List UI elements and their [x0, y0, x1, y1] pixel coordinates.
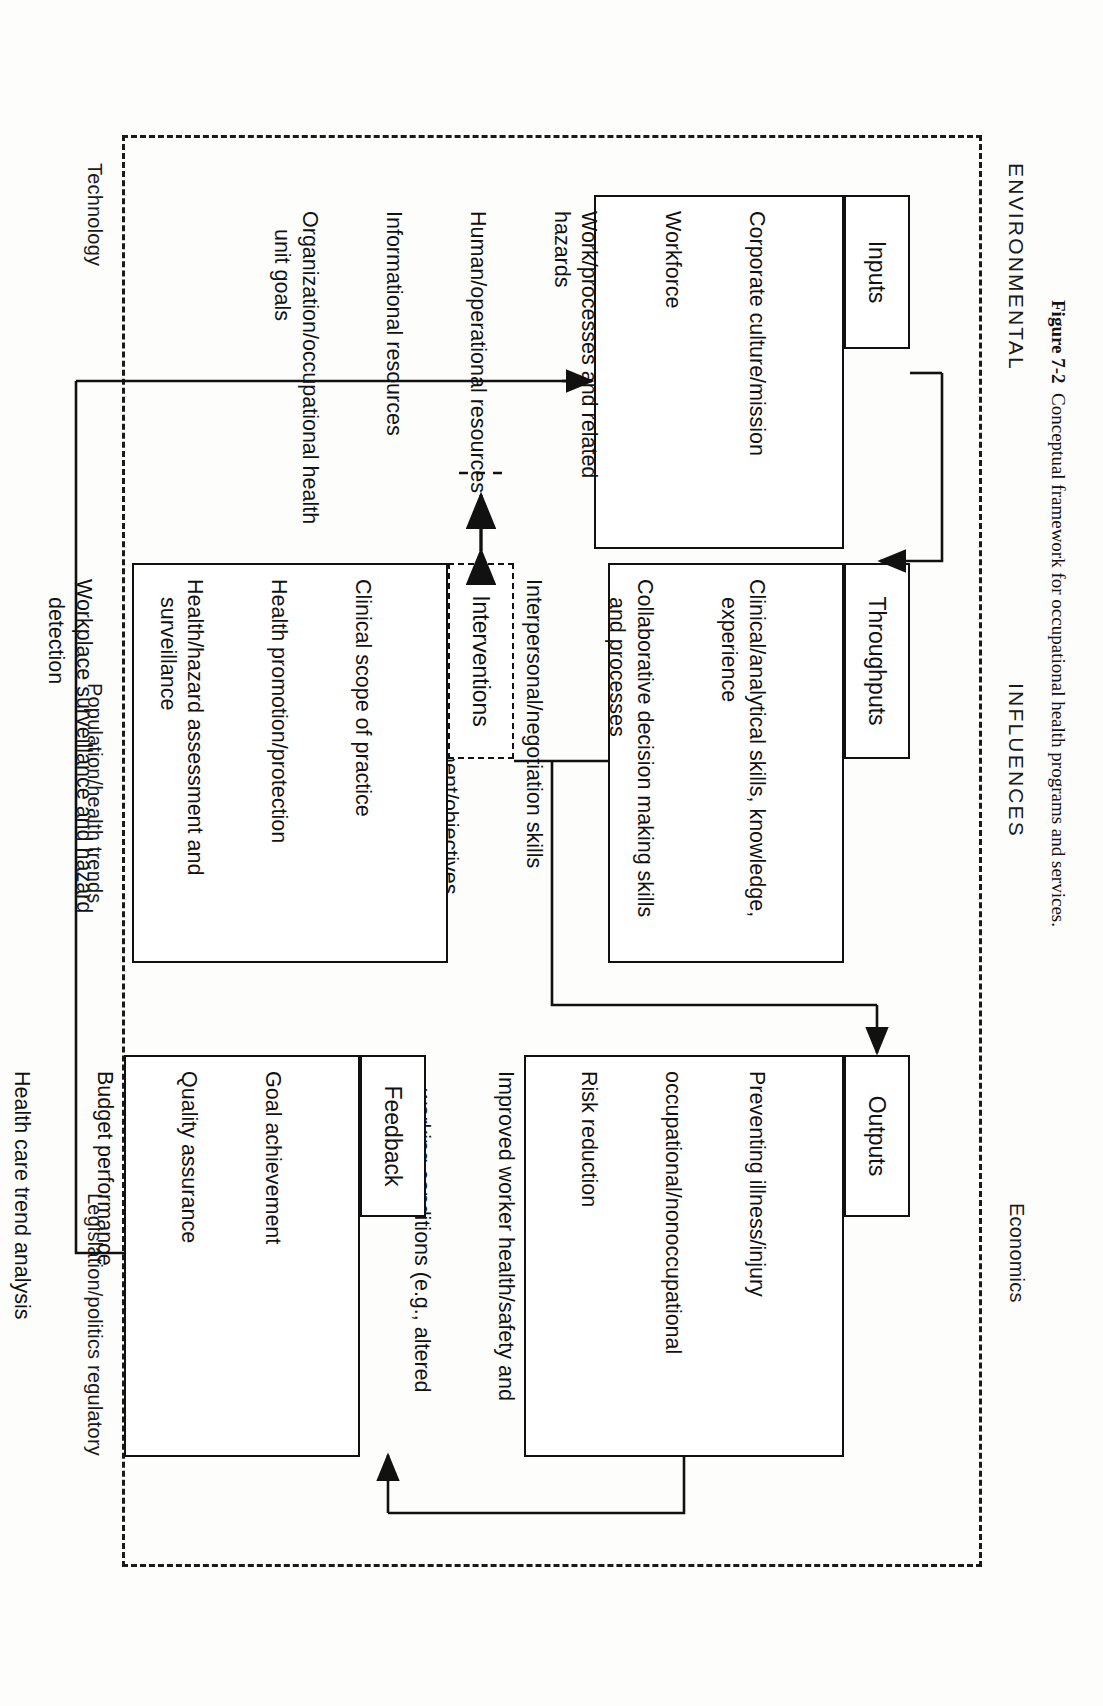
list-item: Risk reduction — [574, 1071, 602, 1453]
influence-label-economics: Economics — [1005, 1203, 1028, 1303]
node-title-inputs: Inputs — [844, 195, 910, 349]
caption-holder: Figure 7-2 Conceptual framework for occu… — [1037, 0, 1077, 1706]
list-item: Workplace surveillance and hazard detect… — [40, 579, 96, 959]
diagram-canvas: ENVIRONMENTAL INFLUENCES Economics Techn… — [42, 43, 1062, 1663]
list-item: occupational/nonoccupational — [658, 1071, 686, 1453]
list-item: Preventing illness/injury — [742, 1071, 770, 1453]
rotated-figure-wrapper: ENVIRONMENTAL INFLUENCES Economics Techn… — [42, 43, 1062, 1663]
node-list-inputs: Corporate culture/mission Workforce Work… — [211, 211, 826, 543]
node-list-interventions: Clinical scope of practice Health promot… — [0, 579, 432, 959]
figure-caption-text: Conceptual framework for occupational he… — [1048, 393, 1069, 927]
list-item: Organization/occupational health unit go… — [267, 211, 323, 543]
list-item: Corporate culture/mission — [742, 211, 770, 543]
list-item: Clinical/analytical skills, knowledge, e… — [714, 579, 770, 959]
node-title-outputs: Outputs — [844, 1055, 910, 1217]
figure-page: ENVIRONMENTAL INFLUENCES Economics Techn… — [0, 0, 1103, 1706]
figure-label: Figure 7-2 — [1048, 300, 1069, 384]
list-item: Clinical scope of practice — [348, 579, 376, 959]
node-title-interventions: Interventions — [448, 563, 514, 759]
node-title-feedback: Feedback — [360, 1055, 426, 1217]
figure-caption: Figure 7-2 Conceptual framework for occu… — [1047, 300, 1069, 927]
list-item: Informational resources — [379, 211, 407, 543]
node-list-feedback: Goal achievement Quality assurance Budge… — [0, 1071, 342, 1453]
list-item: Goal achievement — [258, 1071, 286, 1453]
list-item: Collaborative decision making skills and… — [602, 579, 658, 959]
list-item: Quality assurance — [174, 1071, 202, 1453]
list-item: Workforce — [658, 211, 686, 543]
list-item: Budget performance — [90, 1071, 118, 1453]
list-item: Work/processes and related hazards — [546, 211, 602, 543]
list-item: Interpersonal/negotiation skills — [518, 579, 546, 959]
list-item: Health/hazard assessment and surveillanc… — [152, 579, 208, 959]
influence-label-technology: Technology — [83, 163, 106, 266]
influence-label-environmental: ENVIRONMENTAL — [1004, 163, 1028, 371]
node-title-throughputs: Throughputs — [844, 563, 910, 759]
list-item: Health promotion/protection — [264, 579, 292, 959]
list-item: Improved worker health/safety and — [490, 1071, 518, 1453]
influence-label-influences: INFLUENCES — [1004, 683, 1028, 838]
list-item: Human/operational resources — [462, 211, 490, 543]
list-item: Health care trend analysis — [6, 1071, 34, 1453]
